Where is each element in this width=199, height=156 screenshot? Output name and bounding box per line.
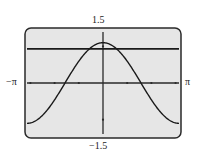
x-tick	[126, 82, 128, 84]
y-tick	[102, 45, 104, 47]
x-tick	[54, 82, 56, 84]
x-tick	[174, 82, 176, 84]
x-tick	[78, 82, 80, 84]
y-tick	[102, 119, 104, 121]
x-tick	[150, 82, 152, 84]
graph-screen	[0, 0, 199, 156]
x-tick	[29, 82, 31, 84]
